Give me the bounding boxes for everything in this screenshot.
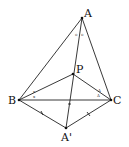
segment-BP — [19, 74, 73, 100]
angle-mark-B-lower: x — [33, 94, 36, 99]
angle-mark-C-lower: Δ — [97, 93, 100, 98]
label-C: C — [113, 94, 121, 107]
point-C — [110, 99, 113, 102]
point-P — [72, 73, 75, 76]
geometry-diagram: o o x x Δ Δ A P B C A' — [0, 0, 129, 147]
point-B — [18, 99, 21, 102]
segment-AB — [19, 18, 82, 100]
segment-AC — [82, 18, 111, 100]
label-P: P — [76, 63, 84, 76]
point-A-prime — [65, 127, 68, 130]
point-A — [81, 17, 84, 20]
segment-CP — [73, 74, 111, 100]
angle-mark-A-right: o — [81, 32, 84, 37]
tick-mark-CA-prime — [87, 112, 90, 116]
angle-mark-A-left: o — [75, 32, 78, 37]
label-A-prime: A' — [60, 131, 72, 144]
label-B: B — [8, 94, 16, 107]
label-A: A — [83, 7, 93, 20]
